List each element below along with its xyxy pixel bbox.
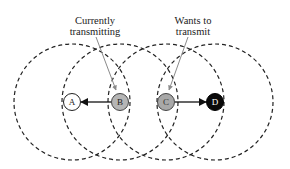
range-circles bbox=[14, 44, 273, 160]
annotation-wants-line2: transmit bbox=[176, 26, 210, 37]
annotation-currently-line2: transmitting bbox=[70, 26, 121, 37]
node-a-label: A bbox=[69, 97, 76, 107]
annotation-line-currently-transmitting bbox=[96, 37, 116, 90]
node-c-label: C bbox=[163, 97, 169, 107]
node-a: A bbox=[64, 94, 81, 111]
node-d-label: D bbox=[212, 97, 219, 107]
node-c: C bbox=[158, 94, 175, 111]
node-d: D bbox=[207, 94, 224, 111]
diagram-canvas: A B C D Currently transmitting Wants to … bbox=[0, 0, 290, 169]
annotation-wants-line1: Wants to bbox=[175, 15, 212, 26]
node-b-label: B bbox=[117, 97, 123, 107]
annotation-currently-line1: Currently bbox=[75, 15, 116, 26]
node-b: B bbox=[112, 94, 129, 111]
